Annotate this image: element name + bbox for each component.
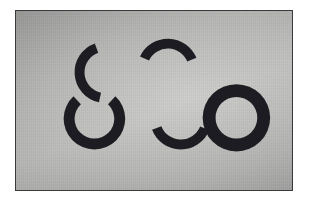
shape-layer (16, 11, 292, 190)
arc-middle-lower (152, 126, 209, 149)
ring-right (203, 84, 271, 151)
arc-middle-upper (140, 39, 196, 62)
arc-left-c (64, 96, 126, 149)
arc-shape-group (64, 39, 271, 152)
image-canvas (0, 0, 309, 207)
arc-top-left (75, 44, 101, 103)
photograph-plate (15, 10, 293, 191)
shapes-svg (16, 11, 292, 190)
